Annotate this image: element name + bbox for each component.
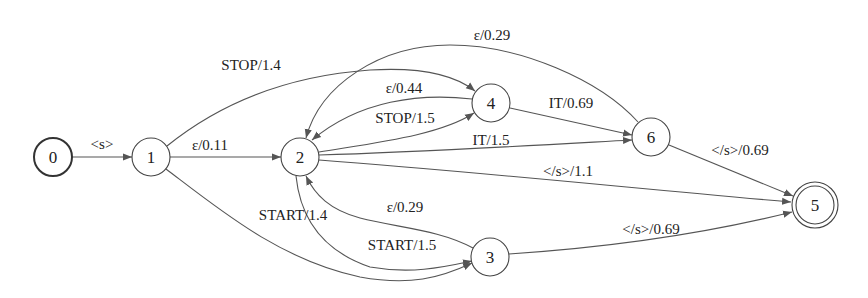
node-3-label: 3 xyxy=(486,248,495,267)
edge-4-6 xyxy=(510,108,632,135)
edge-1-4 xyxy=(167,69,475,146)
node-4: 4 xyxy=(472,84,510,122)
edge-label-0-1: <s> xyxy=(91,136,114,152)
node-2: 2 xyxy=(281,138,319,176)
node-1-label: 1 xyxy=(147,148,156,167)
node-5-final: 5 xyxy=(792,182,838,228)
edge-label-3-2: ε/0.29 xyxy=(387,199,424,215)
node-4-label: 4 xyxy=(487,94,496,113)
node-6: 6 xyxy=(632,118,670,156)
node-1: 1 xyxy=(132,138,170,176)
node-3: 3 xyxy=(471,238,509,276)
edge-6-2 xyxy=(306,45,638,138)
edge-label-3-5: </s>/0.69 xyxy=(622,221,679,237)
edge-label-6-2: ε/0.29 xyxy=(474,27,511,43)
edge-1-3 xyxy=(166,169,472,281)
edge-label-4-6: IT/0.69 xyxy=(549,95,594,111)
edge-label-1-2: ε/0.11 xyxy=(192,137,228,153)
node-6-label: 6 xyxy=(647,128,656,147)
node-5-label: 5 xyxy=(811,196,820,215)
edge-label-6-5: </s>/0.69 xyxy=(711,142,768,158)
node-2-label: 2 xyxy=(296,148,305,167)
edge-label-1-4: STOP/1.4 xyxy=(221,57,281,73)
automaton-diagram: <s> ε/0.11 STOP/1.4 START/1.4 ε/0.44 STO… xyxy=(0,0,868,298)
edge-label-2-4: STOP/1.5 xyxy=(375,110,434,126)
edge-label-1-3: START/1.4 xyxy=(259,207,328,223)
edge-label-2-6: IT/1.5 xyxy=(472,132,509,148)
node-0-label: 0 xyxy=(49,148,58,167)
edge-label-2-5: </s>/1.1 xyxy=(543,163,593,179)
node-0: 0 xyxy=(34,138,72,176)
edge-label-2-3: START/1.5 xyxy=(368,237,436,253)
edge-label-4-2: ε/0.44 xyxy=(386,80,423,96)
